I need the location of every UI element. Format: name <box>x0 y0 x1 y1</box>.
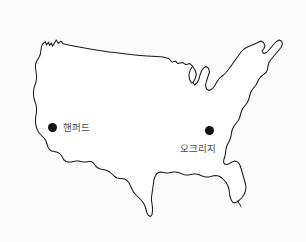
us-map-figure: 핸퍼드 오크리지 <box>0 0 306 242</box>
marker-oakridge[interactable] <box>205 126 214 135</box>
florida-keys-tip <box>238 201 242 207</box>
us-map-outline <box>0 0 306 242</box>
label-hanford: 핸퍼드 <box>63 123 90 133</box>
label-oakridge: 오크리지 <box>180 144 216 154</box>
marker-hanford[interactable] <box>48 123 57 132</box>
